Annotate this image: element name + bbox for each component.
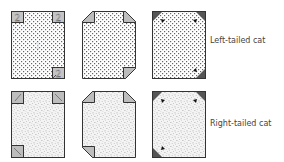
left-tailed-cat-label: Left-tailed cat <box>210 36 265 45</box>
corner-label-br: 2 <box>56 69 62 79</box>
corner-label-tr: 2 <box>56 13 62 23</box>
folded-flap-top-right <box>124 12 136 23</box>
right-tailed-step-2-panel <box>82 91 136 159</box>
corner-flap-bottom-left <box>12 146 24 158</box>
folded-flap-top-left <box>83 12 95 23</box>
folded-flap-top-left <box>83 92 95 103</box>
right-tailed-step-3-panel <box>152 91 206 159</box>
center-label: 1 <box>35 41 41 51</box>
left-tailed-step-1-panel: 2 2 2 1 <box>11 11 65 79</box>
folded-flap-bottom-right <box>124 68 136 79</box>
corner-flap-top-right <box>53 92 65 104</box>
left-tailed-step-2-panel <box>82 11 136 79</box>
folded-flap-top-right <box>124 92 136 103</box>
left-tailed-step-3-panel <box>152 11 206 79</box>
folded-flap-bottom-left <box>83 147 95 158</box>
corner-label-tl: 2 <box>15 13 21 23</box>
right-tailed-step-1-panel <box>11 91 65 159</box>
right-tailed-cat-label: Right-tailed cat <box>210 119 271 128</box>
corner-flap-top-left <box>12 92 24 104</box>
